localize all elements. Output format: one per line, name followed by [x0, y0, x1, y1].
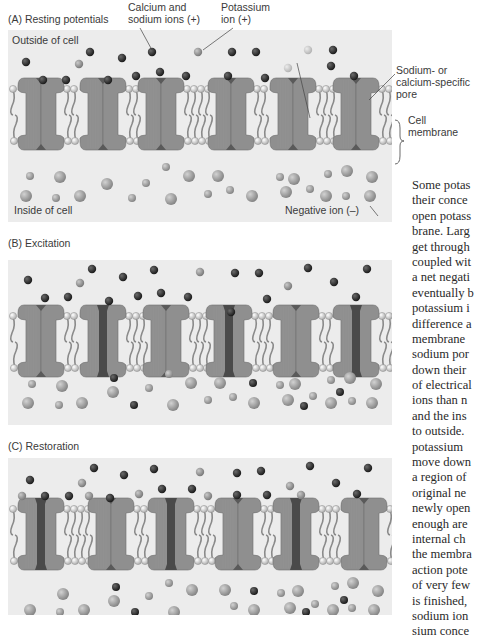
body-text-line: original ne — [412, 486, 478, 501]
body-text-line: coupled wit — [412, 255, 478, 270]
body-text-column: Some potastheir conceopen potassbrane. L… — [412, 178, 478, 639]
body-text-line: enough are — [412, 517, 478, 532]
cell-membrane-label: Cell membrane — [408, 114, 458, 138]
body-text-line: to outside. — [412, 424, 478, 439]
ions — [22, 264, 382, 411]
sodium-pore-label-line3: pore — [396, 88, 470, 100]
calcium-sodium-label-line1: Calcium and — [128, 1, 200, 13]
sodium-pore-label-line1: Sodium- or — [396, 64, 470, 76]
body-text-line: potassium i — [412, 301, 478, 316]
negative-ion-label: Negative ion (–) — [285, 204, 359, 216]
body-text-line: internal ch — [412, 532, 478, 547]
body-text-line: sodium ion — [412, 609, 478, 624]
panel-c-title: (C) Restoration — [8, 440, 79, 452]
panel-c-restoration — [8, 458, 392, 615]
body-text-line: get through — [412, 240, 478, 255]
body-text-line: and the ins — [412, 409, 478, 424]
body-text-line: newly open — [412, 501, 478, 516]
ions — [20, 46, 378, 205]
body-text-line: their conce — [412, 193, 478, 208]
cell-membrane-label-line2: membrane — [408, 126, 458, 138]
panel-a-resting: Outside of cell Inside of cell Negative … — [8, 30, 392, 222]
potassium-ion-label: Potassium ion (+) — [221, 1, 270, 25]
body-text-line: ions than n — [412, 393, 478, 408]
panel-a-title: (A) Resting potentials — [8, 13, 108, 25]
body-text-line: difference a — [412, 317, 478, 332]
body-text-line: sium conce — [412, 624, 478, 639]
body-text-line: brane. Larg — [412, 224, 478, 239]
sodium-pore-label-line2: calcium-specific — [396, 76, 470, 88]
body-text-line: is finished, — [412, 594, 478, 609]
body-text-line: a net negati — [412, 270, 478, 285]
body-text-line: Some potas — [412, 178, 478, 193]
outside-of-cell-label: Outside of cell — [12, 34, 79, 46]
body-text-line: open potass — [412, 209, 478, 224]
calcium-sodium-label-line2: sodium ions (+) — [128, 13, 200, 25]
body-text-line: a region of — [412, 470, 478, 485]
potassium-label-line1: Potassium — [221, 1, 270, 13]
body-text-line: down their — [412, 363, 478, 378]
membrane-lipids — [9, 312, 392, 371]
body-text-line: membrane — [412, 332, 478, 347]
body-text-line: potassium — [412, 440, 478, 455]
panel-b-diagram — [8, 260, 392, 425]
panel-b-title: (B) Excitation — [8, 237, 70, 249]
membrane-lipids — [9, 505, 392, 564]
body-text-line: eventually b — [412, 286, 478, 301]
cell-membrane-label-line1: Cell — [408, 114, 458, 126]
body-text-line: action pote — [412, 563, 478, 578]
body-text-line: of very few — [412, 578, 478, 593]
panel-a-diagram — [8, 30, 392, 222]
membrane-lipids — [9, 85, 392, 144]
body-text-line: sodium por — [412, 347, 478, 362]
calcium-sodium-ions-label: Calcium and sodium ions (+) — [128, 1, 200, 25]
panel-c-diagram — [8, 458, 392, 615]
body-text-line: of electrical — [412, 378, 478, 393]
potassium-label-line2: ion (+) — [221, 13, 270, 25]
body-text-line: move down — [412, 455, 478, 470]
inside-of-cell-label: Inside of cell — [14, 204, 72, 216]
body-text-line: the membra — [412, 547, 478, 562]
panel-b-excitation — [8, 260, 392, 425]
sodium-pore-label: Sodium- or calcium-specific pore — [396, 64, 470, 100]
